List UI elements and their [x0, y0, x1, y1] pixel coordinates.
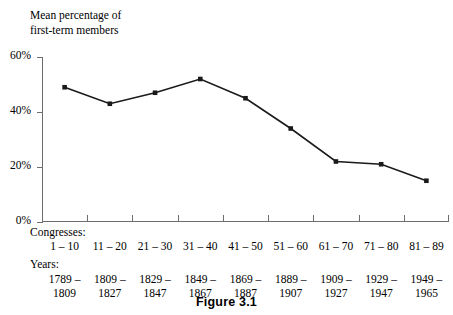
data-point-marker: [62, 85, 67, 90]
data-point-marker: [424, 178, 429, 183]
category-label-congress: 31 – 40: [178, 240, 223, 252]
category-label-congress: 11 – 20: [87, 240, 132, 252]
category-label-congress: 51 – 60: [268, 240, 313, 252]
congress-heading-label: Congresses:: [30, 226, 86, 238]
data-point-marker: [334, 159, 339, 164]
category-label-congress: 61 – 70: [313, 240, 358, 252]
year-range-start: 1809 –: [87, 272, 132, 286]
category-label-congress: 71 – 80: [359, 240, 404, 252]
year-range-start: 1889 –: [268, 272, 313, 286]
year-range-start: 1949 –: [404, 272, 449, 286]
years-heading-label: Years:: [30, 258, 59, 270]
category-label-congress: 41 – 50: [223, 240, 268, 252]
data-point-marker: [379, 162, 384, 167]
year-range-start: 1829 –: [132, 272, 177, 286]
data-point-marker: [288, 126, 293, 131]
category-label-congress: 1 – 10: [42, 240, 87, 252]
data-point-marker: [198, 77, 203, 82]
data-point-marker: [108, 101, 113, 106]
data-point-marker: [153, 90, 158, 95]
y-tick-0pct: 0%: [37, 222, 43, 223]
year-range-start: 1789 –: [42, 272, 87, 286]
data-point-marker: [243, 96, 248, 101]
y-axis-title: Mean percentage of first-term members: [30, 8, 121, 37]
y-tick-label: 40%: [10, 104, 31, 116]
category-label-congress: 21 – 30: [132, 240, 177, 252]
y-tick-label: 0%: [16, 214, 31, 226]
figure-caption: Figure 3.1: [0, 295, 453, 309]
year-range-start: 1849 –: [178, 272, 223, 286]
year-range-start: 1929 –: [359, 272, 404, 286]
y-tick-label: 20%: [10, 159, 31, 171]
data-series: [42, 57, 449, 222]
y-tick-label: 60%: [10, 49, 31, 61]
category-label-congress: 81 – 89: [404, 240, 449, 252]
year-range-start: 1869 –: [223, 272, 268, 286]
series-line: [65, 79, 427, 181]
plot-area: 0%20%40%60%: [42, 57, 449, 222]
year-range-start: 1909 –: [313, 272, 358, 286]
